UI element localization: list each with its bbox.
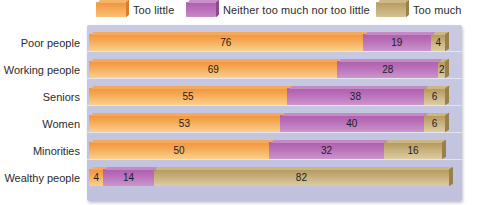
bar-segment-neither[interactable]: 28 (337, 61, 438, 78)
bar-segment-neither[interactable]: 32 (269, 142, 384, 159)
bar-value-label: 55 (182, 92, 193, 102)
bar-segment-too-much[interactable]: 6 (424, 115, 446, 132)
bar-row-seniors: 55 38 6 (87, 88, 462, 105)
bar-value-label: 40 (346, 119, 357, 129)
bar-segment-too-little[interactable]: 76 (89, 34, 363, 51)
row-separator (87, 51, 462, 52)
bar-segment-neither[interactable]: 19 (363, 34, 431, 51)
tan-swatch-icon (376, 2, 406, 17)
row-separator (87, 159, 462, 160)
bar-end-cap (445, 32, 449, 52)
bar-value-label: 82 (296, 173, 307, 183)
legend-label-too-much: Too much (413, 4, 462, 16)
bar-end-cap (442, 140, 446, 160)
bar-segment-too-little[interactable]: 50 (89, 142, 269, 159)
bar-value-label: 32 (321, 146, 332, 156)
category-label-poor-people: Poor people (0, 37, 80, 49)
orange-swatch-icon (96, 2, 126, 17)
bar-value-label: 76 (220, 38, 231, 48)
bar-value-label: 16 (407, 146, 418, 156)
legend-item-neither: Neither too much nor too little (186, 2, 370, 17)
chart-plot-area: 76 19 4 69 28 2 55 38 6 53 40 6 50 32 16… (87, 25, 462, 201)
bar-value-label: 53 (179, 119, 190, 129)
bar-value-label: 6 (432, 119, 438, 129)
bar-value-label: 2 (439, 65, 445, 75)
bar-segment-neither[interactable]: 38 (287, 88, 424, 105)
bar-value-label: 6 (432, 92, 438, 102)
bar-value-label: 4 (93, 173, 99, 183)
bar-value-label: 69 (208, 65, 219, 75)
bar-segment-too-little[interactable]: 4 (89, 169, 103, 186)
purple-swatch-icon (186, 2, 216, 17)
bar-segment-neither[interactable]: 40 (280, 115, 424, 132)
legend-label-neither: Neither too much nor too little (223, 4, 370, 16)
legend-label-too-little: Too little (133, 4, 174, 16)
bar-segment-too-much[interactable]: 82 (154, 169, 449, 186)
legend-item-too-much: Too much (376, 2, 462, 17)
bar-row-minorities: 50 32 16 (87, 142, 462, 159)
category-label-seniors: Seniors (0, 91, 80, 103)
bar-end-cap (449, 167, 453, 187)
bar-value-label: 19 (391, 38, 402, 48)
bar-segment-too-little[interactable]: 69 (89, 61, 337, 78)
row-separator (87, 78, 462, 79)
bar-value-label: 4 (435, 38, 441, 48)
bar-segment-too-much[interactable]: 16 (384, 142, 442, 159)
chart-legend: Too little Neither too much nor too litt… (0, 0, 478, 25)
bar-row-women: 53 40 6 (87, 115, 462, 132)
bar-row-wealthy-people: 4 14 82 (87, 169, 462, 186)
bar-segment-too-little[interactable]: 53 (89, 115, 280, 132)
bar-row-poor-people: 76 19 4 (87, 34, 462, 51)
bar-end-cap (445, 113, 449, 133)
bar-value-label: 14 (123, 173, 134, 183)
bar-segment-too-little[interactable]: 55 (89, 88, 287, 105)
category-label-minorities: Minorities (0, 145, 80, 157)
bar-value-label: 38 (350, 92, 361, 102)
legend-item-too-little: Too little (96, 2, 174, 17)
row-separator (87, 105, 462, 106)
bar-row-working-people: 69 28 2 (87, 61, 462, 78)
category-label-working-people: Working people (0, 64, 80, 76)
category-label-women: Women (0, 118, 80, 130)
row-separator (87, 132, 462, 133)
bar-segment-too-much[interactable]: 4 (431, 34, 445, 51)
bar-value-label: 50 (173, 146, 184, 156)
bar-value-label: 28 (382, 65, 393, 75)
bar-end-cap (445, 86, 449, 106)
bar-segment-neither[interactable]: 14 (103, 169, 153, 186)
bar-segment-too-much[interactable]: 6 (424, 88, 446, 105)
category-axis: Poor people Working people Seniors Women… (0, 25, 84, 201)
category-label-wealthy-people: Wealthy people (0, 172, 80, 184)
bar-end-cap (445, 59, 449, 79)
